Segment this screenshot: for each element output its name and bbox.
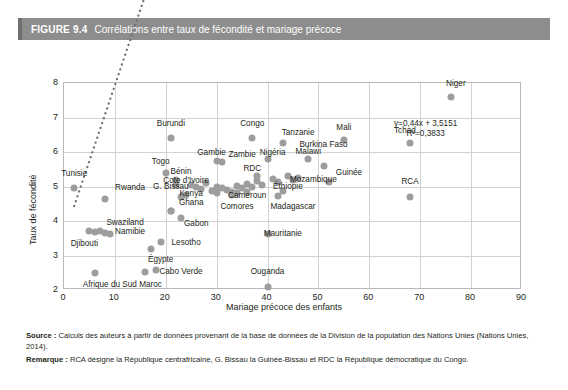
chart-area: Taux de fécondité 2345678 TunisieRwandaD… <box>18 40 550 315</box>
point-label: Niger <box>446 80 466 88</box>
point-label: Maroc <box>139 281 162 289</box>
y-axis-tick-label: 6 <box>36 146 58 156</box>
point-label: Cabo Verde <box>159 268 202 276</box>
data-point <box>71 185 78 192</box>
point-label: Lesotho <box>172 239 201 247</box>
x-axis-tick-label: 10 <box>102 292 126 302</box>
figure-container: FIGURE 9.4 Corrélations entre taux de fé… <box>0 0 568 390</box>
point-label: Gabon <box>184 220 209 228</box>
data-point <box>447 94 454 101</box>
point-label: Tunisie <box>61 170 87 178</box>
point-label: RDC <box>243 164 261 172</box>
y-axis-tick-label: 8 <box>36 77 58 87</box>
x-axis-tick-label: 50 <box>305 292 329 302</box>
data-point <box>167 135 174 142</box>
point-label: Ouganda <box>251 268 285 276</box>
x-axis-tick-label: 80 <box>458 292 482 302</box>
figure-title: Corrélations entre taux de fécondité et … <box>94 24 341 35</box>
source-label: Source : <box>26 331 56 340</box>
x-axis-tick-label: 20 <box>153 292 177 302</box>
point-label: Kenya <box>180 190 203 198</box>
point-label: Togo <box>152 158 170 166</box>
point-label: Comores <box>220 202 253 210</box>
point-label: Cameroun <box>228 192 266 200</box>
data-point <box>91 269 98 276</box>
plot-region: TunisieRwandaDjiboutiSwazilandNamibieAfr… <box>63 82 521 289</box>
y-axis-tick-label: 4 <box>36 215 58 225</box>
point-label: Afrique du Sud <box>83 281 137 289</box>
data-point <box>142 269 149 276</box>
source-text: Calculs des auteurs à partir de données … <box>26 331 528 351</box>
data-point <box>152 266 159 273</box>
data-point <box>254 173 261 180</box>
data-point <box>147 245 154 252</box>
data-point <box>407 140 414 147</box>
figure-footnotes: Source : Calculs des auteurs à partir de… <box>26 330 544 366</box>
data-point <box>279 140 286 147</box>
data-point <box>101 195 108 202</box>
point-label: Égypte <box>148 256 174 264</box>
point-label: Mauritanie <box>264 230 302 238</box>
point-label: Bénin <box>171 168 192 176</box>
data-point <box>101 230 108 237</box>
point-label: Guinée <box>336 169 362 177</box>
data-point <box>86 228 93 235</box>
x-axis-tick-label: 30 <box>204 292 228 302</box>
point-label: Rwanda <box>115 184 145 192</box>
header-accent-bar <box>18 18 22 40</box>
data-point <box>320 162 327 169</box>
point-label: Cote d'Ivoire <box>163 177 209 185</box>
y-axis-tick-label: 7 <box>36 112 58 122</box>
point-label: Mozambique <box>290 175 337 183</box>
note-line: Remarque : RCA désigne la République cen… <box>26 354 544 365</box>
data-point <box>213 189 220 196</box>
y-axis-tick-label: 3 <box>36 250 58 260</box>
equation-text: y=0,44x + 3,5151 <box>394 119 457 129</box>
point-label: Tanzanie <box>282 129 315 137</box>
source-line: Source : Calculs des auteurs à partir de… <box>26 330 544 353</box>
trendline-equation: y=0,44x + 3,5151 R²=0,3833 <box>394 119 457 140</box>
data-point <box>407 193 414 200</box>
point-label: Ghana <box>179 199 204 207</box>
plot-outer: Taux de fécondité 2345678 TunisieRwandaD… <box>18 40 550 315</box>
point-label: Congo <box>240 120 264 128</box>
figure-number: FIGURE 9.4 <box>31 24 87 35</box>
data-point <box>249 135 256 142</box>
data-point <box>157 238 164 245</box>
x-axis-tick-label: 70 <box>407 292 431 302</box>
y-axis-tick-label: 5 <box>36 181 58 191</box>
point-label: RCA <box>401 178 418 186</box>
figure-header-bar: FIGURE 9.4 Corrélations entre taux de fé… <box>18 18 550 40</box>
point-label: Burkina Faso <box>299 141 347 149</box>
point-label: Burundi <box>157 120 185 128</box>
data-point <box>167 207 174 214</box>
x-axis-tick-label: 60 <box>356 292 380 302</box>
x-axis-tick-label: 90 <box>509 292 533 302</box>
data-point <box>305 155 312 162</box>
x-axis-tick-label: 0 <box>51 292 75 302</box>
data-point <box>264 283 271 290</box>
note-label: Remarque : <box>26 355 68 364</box>
point-label: Zambie <box>228 151 255 159</box>
point-label: Namibie <box>115 228 145 236</box>
data-point <box>218 158 225 165</box>
point-label: Mali <box>336 124 351 132</box>
note-text: RCA désigne la République centrafricaine… <box>68 355 469 364</box>
point-label: Nigéria <box>260 149 286 157</box>
data-point <box>162 169 169 176</box>
point-label: Madagascar <box>270 202 315 210</box>
x-axis-title: Mariage précoce des enfants <box>18 302 550 312</box>
point-label: Gambie <box>197 149 226 157</box>
data-point <box>259 181 266 188</box>
x-axis-tick-label: 40 <box>255 292 279 302</box>
r-squared-text: R²=0,3833 <box>394 129 457 139</box>
point-label: Djibouti <box>71 240 98 248</box>
